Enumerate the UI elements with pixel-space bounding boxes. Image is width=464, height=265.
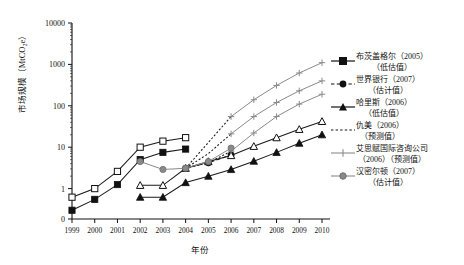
chart-legend: 布茨盖格尔（2005）（低估值）世界银行（2007）（估计值）哈里斯（2006）…	[330, 52, 464, 190]
legend-item-0[interactable]: 布茨盖格尔（2005）（低估值）	[330, 52, 464, 73]
data-point	[114, 181, 120, 187]
data-point	[250, 143, 257, 150]
legend-label: 艾思赋国际咨询公司（2006）（预测值）	[356, 144, 428, 165]
data-point	[318, 131, 325, 138]
legend-label-main: 世界银行（2007）	[356, 75, 420, 84]
data-point	[183, 165, 189, 171]
series-line	[72, 149, 186, 210]
legend-label: 哈里斯（2006）（低估值）	[356, 98, 412, 119]
data-point	[183, 146, 189, 152]
series-line	[231, 63, 322, 117]
y-tick-label: 1000	[49, 60, 65, 69]
legend-label-main: 艾思赋国际咨询公司	[356, 144, 428, 153]
x-tick-label: 2005	[201, 226, 216, 235]
legend-marker-icon	[330, 145, 356, 158]
x-tick-label: 2010	[315, 226, 330, 235]
legend-marker-icon	[330, 99, 356, 112]
data-point	[137, 158, 143, 164]
legend-label-main: 仇美（2006）	[356, 121, 404, 130]
legend-label-sub: （预测值）	[356, 132, 404, 143]
legend-item-5[interactable]: 汉密尔顿（2007）（估计值）	[330, 167, 464, 188]
data-point	[250, 157, 257, 164]
y-tick-label: 100	[53, 102, 65, 111]
data-point	[183, 135, 189, 141]
legend-label: 仇美（2006）（预测值）	[356, 121, 404, 142]
legend-item-1[interactable]: 世界银行（2007）（估计值）	[330, 75, 464, 96]
data-point	[296, 139, 303, 146]
legend-label-sub: （低估值）	[356, 109, 412, 120]
y-tick-label: 0	[61, 215, 65, 224]
legend-marker-icon	[330, 122, 356, 135]
data-point	[137, 144, 143, 150]
data-point	[92, 186, 98, 192]
y-tick-label: 1	[61, 185, 65, 194]
legend-label-main: 汉密尔顿（2007）	[356, 167, 420, 176]
x-axis-ticks: 1999200020012002200320042005200620072008…	[65, 219, 330, 235]
legend-label-main: 布茨盖格尔（2005）	[356, 52, 428, 61]
x-tick-label: 2000	[87, 226, 102, 235]
data-point	[92, 196, 98, 202]
x-tick-label: 2006	[224, 226, 239, 235]
legend-label-sub: （估计值）	[356, 178, 420, 189]
legend-marker-icon	[330, 76, 356, 89]
data-point	[205, 158, 211, 164]
data-point	[69, 207, 75, 213]
legend-label-sub: （估计值）	[356, 86, 420, 97]
legend-item-4[interactable]: 艾思赋国际咨询公司（2006）（预测值）	[330, 144, 464, 165]
legend-marker-icon	[330, 168, 356, 181]
data-point	[273, 134, 280, 141]
legend-label: 世界银行（2007）（估计值）	[356, 75, 420, 96]
y-tick-label: 10000	[45, 19, 65, 28]
data-point	[160, 138, 166, 144]
x-tick-label: 2004	[178, 226, 193, 235]
x-tick-label: 2003	[156, 226, 171, 235]
data-point	[227, 166, 234, 173]
series-icf-high	[228, 59, 325, 119]
y-axis-ticks: 1000010001001010	[45, 19, 72, 224]
legend-item-2[interactable]: 哈里斯（2006）（低估值）	[330, 98, 464, 119]
data-point	[228, 145, 234, 151]
data-point	[160, 166, 166, 172]
data-point	[296, 126, 303, 133]
data-point	[273, 149, 280, 156]
chart-root: 市场规模（MtCO₂e） 年份 100001000100101019992000…	[0, 0, 464, 265]
y-tick-label: 10	[57, 143, 65, 152]
legend-item-3[interactable]: 仇美（2006）（预测值）	[330, 121, 464, 142]
series-butzengeier-high	[69, 135, 189, 201]
legend-label-sub: （低估值）	[356, 63, 428, 74]
x-tick-label: 2009	[292, 226, 307, 235]
x-tick-label: 2007	[246, 226, 261, 235]
series-line	[72, 138, 186, 198]
legend-label: 布茨盖格尔（2005）（低估值）	[356, 52, 428, 73]
x-tick-label: 2002	[133, 226, 148, 235]
x-tick-label: 2001	[110, 226, 125, 235]
legend-label: 汉密尔顿（2007）（估计值）	[356, 167, 420, 188]
data-point	[114, 168, 120, 174]
data-point	[69, 194, 75, 200]
x-tick-label: 1999	[65, 226, 80, 235]
legend-marker-icon	[330, 53, 356, 66]
legend-label-sub: （2006）（预测值）	[356, 155, 428, 166]
legend-label-main: 哈里斯（2006）	[356, 98, 412, 107]
x-tick-label: 2008	[269, 226, 284, 235]
data-point	[318, 118, 325, 125]
data-point	[160, 149, 166, 155]
